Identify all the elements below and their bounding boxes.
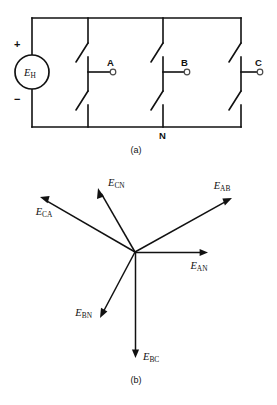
branch-b: B: [151, 18, 190, 127]
circuit-panel: EH + − A: [14, 18, 263, 155]
source-minus-sign: −: [14, 93, 20, 105]
phasor-e-ab-arrowhead: [222, 198, 232, 206]
terminal-a-label: A: [107, 57, 114, 68]
phasor-panel: ECN ECA EAB EAN: [35, 177, 232, 385]
branch-b-upper-switch-blade: [151, 43, 163, 62]
neutral-node-label: N: [159, 130, 166, 141]
branch-c-lower-switch-blade: [229, 91, 241, 110]
phasor-e-ab-label: EAB: [213, 180, 231, 193]
figure-container: EH + − A: [0, 0, 277, 405]
phasor-e-ab-shaft: [135, 202, 226, 252]
phasor-e-bn: EBN: [74, 252, 135, 320]
phasor-e-bc: EBC: [132, 252, 159, 364]
terminal-c-label: C: [255, 57, 262, 68]
phasor-e-ca: ECA: [35, 196, 135, 252]
phasor-e-bn-label: EBN: [74, 307, 92, 320]
phasor-e-ca-shaft: [46, 201, 135, 252]
branch-c-upper-switch-blade: [229, 43, 241, 62]
terminal-a-node: [110, 69, 116, 75]
phasor-e-cn-label: ECN: [107, 177, 125, 190]
branch-a: A: [76, 18, 116, 127]
terminal-b-label: B: [181, 57, 188, 68]
caption-a: (a): [131, 145, 142, 155]
phasor-e-an-label: EAN: [189, 260, 208, 273]
branch-a-upper-switch-blade: [76, 43, 88, 62]
terminal-c-node: [257, 69, 263, 75]
phasor-e-an: EAN: [135, 249, 208, 274]
phasor-e-ab: EAB: [135, 180, 232, 252]
phasor-e-bn-shaft: [104, 252, 135, 311]
phasor-e-an-arrowhead: [200, 249, 208, 256]
phasor-e-bn-arrowhead: [100, 308, 107, 318]
branch-c: C: [229, 18, 263, 127]
phasor-e-bc-arrowhead: [132, 350, 139, 358]
source-plus-sign: +: [14, 38, 20, 50]
terminal-b-node: [184, 69, 190, 75]
caption-b: (b): [131, 375, 142, 385]
branch-b-lower-switch-blade: [151, 91, 163, 110]
phasor-e-cn-shaft: [101, 194, 135, 252]
phasor-e-bc-label: EBC: [142, 351, 159, 364]
branch-a-lower-switch-blade: [76, 91, 88, 110]
phasor-e-ca-label: ECA: [35, 206, 53, 219]
figure-svg: EH + − A: [0, 0, 277, 405]
